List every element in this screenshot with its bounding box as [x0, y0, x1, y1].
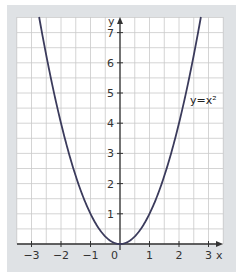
x-tick-label: 2 [176, 249, 183, 262]
x-tick-label: 0 [111, 249, 118, 262]
curve-label: y=x² [190, 94, 217, 107]
x-tick-label: −2 [53, 249, 69, 262]
x-tick-label: −1 [82, 249, 98, 262]
x-axis-label: x [216, 249, 223, 262]
x-tick-label: −3 [23, 249, 39, 262]
y-tick-label: 3 [107, 147, 114, 160]
y-tick-label: 5 [107, 87, 114, 100]
x-tick-label: 1 [146, 249, 153, 262]
y-axis-label: y [108, 15, 115, 28]
y-tick-label: 4 [107, 117, 114, 130]
y-tick-label: 1 [107, 208, 114, 221]
parabola-chart: −3−2−101231234567 y=x² x y [0, 0, 241, 280]
y-tick-label: 7 [107, 27, 114, 40]
y-tick-label: 2 [107, 178, 114, 191]
y-tick-label: 6 [107, 57, 114, 70]
x-tick-label: 3 [205, 249, 212, 262]
